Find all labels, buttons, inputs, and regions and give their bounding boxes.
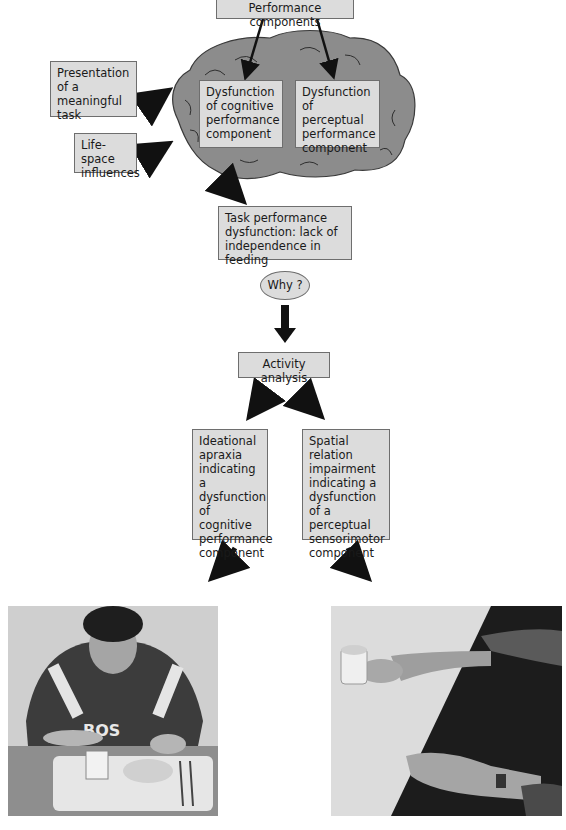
cognitive-dysfunction-box: Dysfunction of cognitive performance com… — [199, 80, 283, 148]
perceptual-dysfunction-box: Dysfunction of perceptual performance co… — [295, 80, 380, 148]
life-space-box: Life-space influences — [74, 133, 137, 173]
hand-reaching-for-cup-photo — [331, 606, 562, 816]
spatial-relation-box: Spatial relation impairment indicating a… — [302, 429, 390, 540]
meaningful-task-box: Presentation of a meaningful task — [50, 61, 137, 117]
ideational-apraxia-box: Ideational apraxia indicating a dysfunct… — [192, 429, 268, 540]
activity-analysis-box: Activity analysis — [238, 352, 330, 378]
person-eating-at-tray-photo: BOS — [8, 606, 218, 816]
performance-components-box: Performance components — [216, 0, 354, 19]
why-ellipse: Why ? — [260, 271, 310, 300]
task-performance-box: Task performance dysfunction: lack of in… — [218, 206, 352, 260]
